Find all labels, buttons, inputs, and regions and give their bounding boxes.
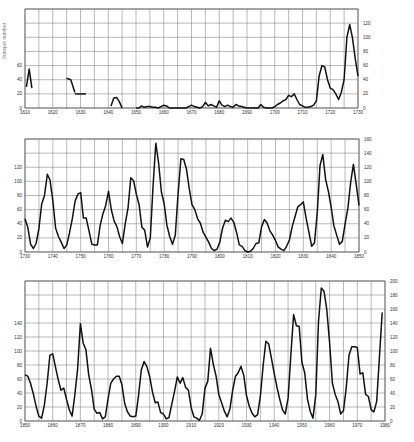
- x-tick-label: 1970: [352, 423, 363, 428]
- x-tick-label: 1740: [48, 254, 59, 259]
- y-tick-label-right: 80: [390, 363, 396, 368]
- y-tick-label-right: 0: [363, 106, 366, 111]
- chart-panel-3: 1850186018701880189019001910192019301940…: [14, 279, 398, 428]
- y-tick-label-left: 40: [17, 77, 23, 82]
- sunspot-series-line: [25, 288, 382, 420]
- y-tick-label-right: 40: [363, 77, 369, 82]
- y-tick-label-left: 20: [17, 235, 23, 240]
- x-tick-label: 1900: [158, 423, 169, 428]
- x-tick-label: 1980: [380, 423, 391, 428]
- x-tick-label: 1630: [75, 110, 86, 115]
- y-tick-label-right: 160: [364, 137, 372, 142]
- y-tick-label-right: 100: [364, 179, 372, 184]
- x-tick-label: 1760: [103, 254, 114, 259]
- sunspot-chart-figure: 1610162016301640165016601670168016901700…: [0, 0, 414, 442]
- y-tick-label-right: 40: [390, 391, 396, 396]
- y-tick-label-left: 60: [17, 377, 23, 382]
- y-tick-label-left: 120: [14, 335, 22, 340]
- x-tick-label: 1780: [159, 254, 170, 259]
- x-tick-label: 1660: [159, 110, 170, 115]
- x-tick-label: 1620: [48, 110, 59, 115]
- y-tick-label-right: 60: [363, 63, 369, 68]
- x-tick-label: 1700: [270, 110, 281, 115]
- y-tick-label-left: 60: [17, 63, 23, 68]
- y-tick-label-right: 200: [390, 279, 398, 284]
- y-tick-label-right: 20: [363, 91, 369, 96]
- y-tick-label-right: 20: [390, 405, 396, 410]
- y-tick-label-right: 80: [364, 193, 370, 198]
- x-tick-label: 1790: [187, 254, 198, 259]
- y-tick-label-left: 40: [17, 391, 23, 396]
- x-tick-label: 1920: [214, 423, 225, 428]
- y-tick-label-left: 20: [17, 405, 23, 410]
- y-tick-label-left: 0: [19, 419, 22, 424]
- y-tick-label-right: 0: [390, 419, 393, 424]
- y-axis-label: Sunspot number: [1, 11, 7, 71]
- y-tick-label-right: 140: [364, 151, 372, 156]
- x-tick-label: 1800: [215, 254, 226, 259]
- y-tick-label-right: 180: [390, 293, 398, 298]
- y-tick-label-left: 60: [17, 207, 23, 212]
- x-tick-label: 1830: [298, 254, 309, 259]
- x-tick-label: 1670: [186, 110, 197, 115]
- y-tick-label-right: 120: [390, 335, 398, 340]
- y-tick-label-right: 60: [364, 207, 370, 212]
- x-tick-label: 1840: [326, 254, 337, 259]
- y-tick-label-left: 0: [19, 250, 22, 255]
- y-tick-label-left: 20: [17, 91, 23, 96]
- sunspot-series-line: [26, 69, 32, 88]
- x-tick-label: 1640: [103, 110, 114, 115]
- y-tick-label-left: 140: [14, 321, 22, 326]
- x-tick-label: 1940: [269, 423, 280, 428]
- y-tick-label-right: 80: [363, 49, 369, 54]
- sunspot-line-charts: 1610162016301640165016601670168016901700…: [0, 0, 414, 442]
- x-tick-label: 1850: [20, 423, 31, 428]
- x-tick-label: 1930: [241, 423, 252, 428]
- y-tick-label-left: 100: [14, 179, 22, 184]
- x-tick-label: 1850: [354, 254, 365, 259]
- y-tick-label-right: 140: [390, 321, 398, 326]
- x-tick-label: 1680: [214, 110, 225, 115]
- chart-panel-2: 1730174017501760177017801790180018101820…: [14, 137, 372, 259]
- sunspot-series-line: [67, 78, 75, 92]
- x-tick-label: 1880: [103, 423, 114, 428]
- x-tick-label: 1690: [242, 110, 253, 115]
- x-tick-label: 1710: [297, 110, 308, 115]
- y-tick-label-right: 0: [364, 250, 367, 255]
- y-tick-label-right: 120: [364, 165, 372, 170]
- y-tick-label-left: 0: [19, 106, 22, 111]
- chart-panel-1: 1610162016301640165016601670168016901700…: [17, 9, 371, 115]
- x-tick-label: 1770: [131, 254, 142, 259]
- y-tick-label-right: 160: [390, 307, 398, 312]
- x-tick-label: 1750: [76, 254, 87, 259]
- x-tick-label: 1730: [20, 254, 31, 259]
- y-tick-label-left: 80: [17, 193, 23, 198]
- y-tick-label-right: 100: [390, 349, 398, 354]
- y-tick-label-right: 100: [363, 35, 371, 40]
- x-tick-label: 1890: [131, 423, 142, 428]
- y-tick-label-left: 80: [17, 363, 23, 368]
- x-tick-label: 1730: [353, 110, 364, 115]
- x-tick-label: 1610: [20, 110, 31, 115]
- sunspot-series-line: [111, 97, 122, 108]
- y-tick-label-left: 120: [14, 165, 22, 170]
- y-tick-label-left: 100: [14, 349, 22, 354]
- y-tick-label-right: 60: [390, 377, 396, 382]
- y-tick-label-right: 20: [364, 235, 370, 240]
- x-tick-label: 1810: [243, 254, 254, 259]
- x-tick-label: 1950: [297, 423, 308, 428]
- y-tick-label-right: 120: [363, 21, 371, 26]
- x-tick-label: 1960: [324, 423, 335, 428]
- x-tick-label: 1720: [325, 110, 336, 115]
- x-tick-label: 1820: [270, 254, 281, 259]
- x-tick-label: 1870: [75, 423, 86, 428]
- x-tick-label: 1650: [131, 110, 142, 115]
- y-tick-label-right: 40: [364, 221, 370, 226]
- y-tick-label-left: 40: [17, 221, 23, 226]
- x-tick-label: 1860: [48, 423, 59, 428]
- x-tick-label: 1910: [186, 423, 197, 428]
